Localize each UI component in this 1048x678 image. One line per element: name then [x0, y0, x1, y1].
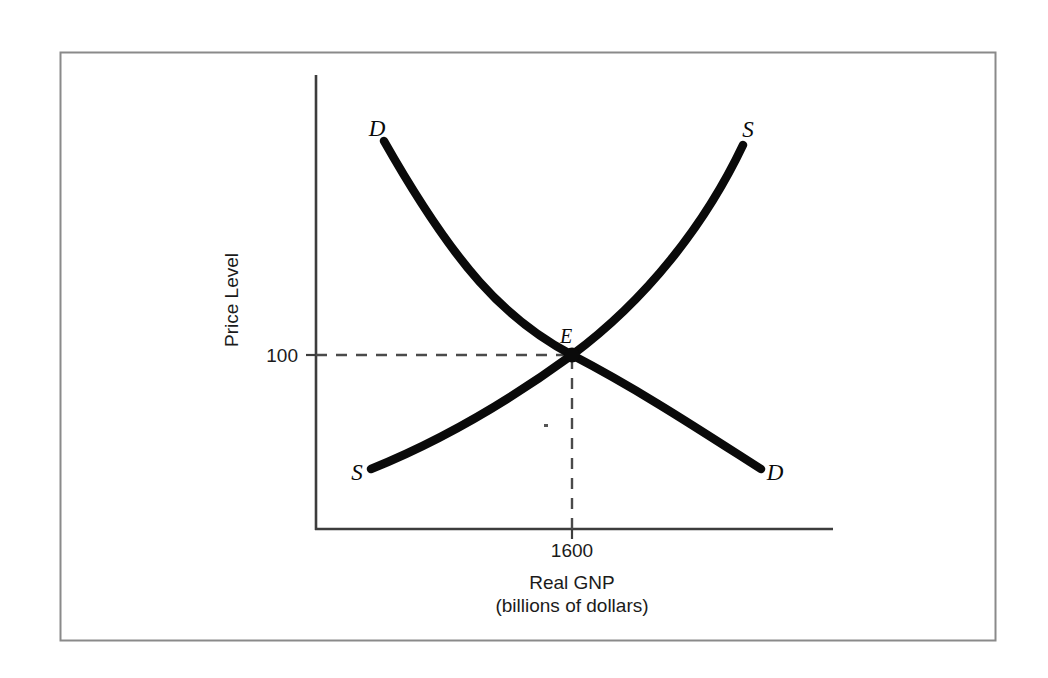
scan-speck-artifact	[544, 424, 548, 427]
supply-curve-top-label: S	[742, 117, 754, 142]
supply-demand-figure: D D S S E 100 1600 Price Level Real GNP …	[0, 0, 1048, 678]
canvas-background	[0, 0, 1048, 678]
equilibrium-label: E	[559, 325, 572, 347]
y-axis-tick-label: 100	[266, 345, 298, 366]
demand-curve-bottom-label: D	[766, 460, 784, 485]
y-axis-title: Price Level	[221, 253, 242, 347]
x-axis-title-line-2: (billions of dollars)	[495, 595, 648, 616]
x-axis-tick-label: 1600	[551, 540, 593, 561]
figure-container: D D S S E 100 1600 Price Level Real GNP …	[0, 0, 1048, 678]
equilibrium-point-marker	[565, 348, 580, 363]
demand-curve-top-label: D	[368, 116, 386, 141]
supply-curve-bottom-label: S	[351, 460, 363, 485]
x-axis-title-line-1: Real GNP	[529, 572, 615, 593]
